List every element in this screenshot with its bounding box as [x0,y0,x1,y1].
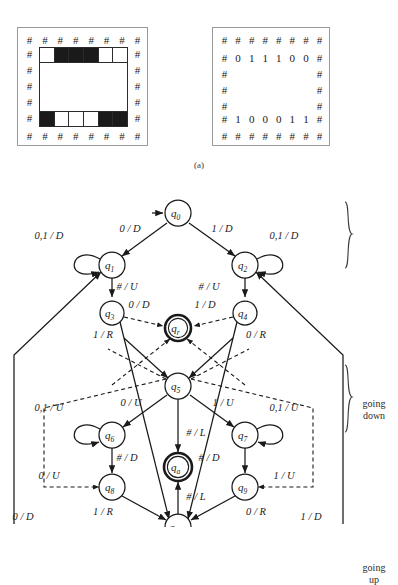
edge-dashed-q5-upleft [108,349,166,379]
state-node-qa[interactable]: qa [164,453,192,481]
right-panel-bottom-hash-row: # # # # # # # # [219,131,325,142]
edge-q4-q10 [188,322,237,519]
hash-symbol: # [117,131,128,142]
transition-label-t-q2-q4: # / U [199,281,221,292]
state-node-q8[interactable]: q8 [99,474,125,500]
hash-symbol: # [246,35,257,46]
hash-symbol: # [233,35,244,46]
hash-symbol: # [314,69,325,85]
hash-symbol: # [101,131,112,142]
tape-bottom-cell-5 [113,112,127,126]
brace-going-down [345,202,352,268]
state-node-q7[interactable]: q7 [232,422,258,448]
hash-symbol: # [70,35,81,46]
tape-top-cell-4 [99,48,114,62]
tape-bottom-cell-3 [84,112,99,126]
state-node-q10[interactable]: q10 [165,514,191,527]
hash-symbol: # [39,35,50,46]
transition-label-t-q0-q2: 1 / D [212,223,233,234]
state-label-subscript: 2 [243,265,247,274]
transition-label-t-q2-loop: 0,1 / D [270,230,299,241]
tape-digit: 1 [233,114,244,125]
hash-symbol: # [314,35,325,46]
tape-top-cell-2 [69,48,84,62]
right-panel-top-digit-row: # 0 1 1 1 0 0 # [219,53,325,64]
edge-dashed-q5-upright [191,349,249,379]
transition-label-t-dash-left: 0 / U [39,470,61,481]
transition-label-t-q6-loop: 0,1 / U [35,402,65,413]
edge-q4-qr [194,317,233,326]
state-diagram-svg: q0q1q2q3q4qrq5q6q7qaq8q9q10 0 / D1 / D0,… [0,180,398,527]
hash-symbol: # [260,131,271,142]
phase-braces [345,202,352,432]
hash-symbol: # [300,131,311,142]
state-node-q5[interactable]: q5 [165,373,191,399]
state-label-subscript: 6 [110,435,114,444]
left-panel-top-hash-row: # # # # # # # # [24,35,143,46]
transition-label-t-outer-right: 1 / D [301,511,322,522]
hash-symbol: # [24,81,35,97]
state-node-q6[interactable]: q6 [99,422,125,448]
hash-symbol: # [132,81,143,97]
hash-symbol: # [132,97,143,113]
state-label-subscript: 3 [109,313,114,322]
hash-symbol: # [24,35,35,46]
state-node-q3[interactable]: q3 [100,301,124,325]
state-label-subscript: 10 [175,527,183,528]
hash-symbol: # [70,131,81,142]
state-node-q9[interactable]: q9 [232,474,258,500]
tape-bottom-row [40,111,127,126]
hash-symbol: # [132,49,143,65]
state-node-q1[interactable]: q1 [99,252,125,278]
left-panel-right-hash-col: # # # # # [132,49,143,129]
tape-top-row [40,48,127,63]
state-node-qr[interactable]: qr [165,315,191,341]
hash-symbol: # [132,131,143,142]
hash-symbol: # [219,69,230,85]
transition-label-t-outer-left: 0 / D [13,511,34,522]
hash-symbol: # [86,35,97,46]
tape-digit: 1 [260,53,271,64]
tape-panels: # # # # # # # # # # # # # # # # # [0,0,398,152]
hash-symbol: # [273,131,284,142]
tape-digit: 0 [233,53,244,64]
hash-symbol: # [287,35,298,46]
tape-digit: 0 [260,114,271,125]
hash-symbol: # [24,65,35,81]
state-label-subscript: 8 [110,487,114,496]
state-label-subscript: 1 [110,265,114,274]
transition-label-t-q1-loop: 0,1 / D [35,230,64,241]
edge-q7-selfloop [257,425,283,444]
hash-symbol: # [55,131,66,142]
right-panel-right-hash-col: # # # [314,69,325,117]
hash-symbol: # [86,131,97,142]
state-label-subscript: 7 [243,435,247,444]
tape-top-cell-5 [113,48,127,62]
transition-label-t-q5-qa: # / L [186,427,205,438]
transition-label-t-q9-q10: 0 / R [246,506,266,517]
state-node-q2[interactable]: q2 [232,252,258,278]
state-node-q0[interactable]: q0 [165,200,191,226]
hash-symbol: # [101,35,112,46]
hash-symbol: # [132,35,143,46]
state-label-subscript: 5 [176,386,180,395]
edge-q2-selfloop [257,255,283,274]
transition-label-t-q3-qr: 0 / D [129,299,150,310]
phase-label-going-up-line1: going [352,562,396,574]
tape-digit: 1 [300,114,311,125]
hash-symbol: # [132,65,143,81]
left-panel-bottom-hash-row: # # # # # # # # [24,131,143,142]
edge-q8-q10 [122,496,166,520]
hash-symbol: # [132,113,143,129]
phase-label-going-down-line2: down [352,410,396,422]
transition-label-t-dash-right: 1 / U [274,470,296,481]
hash-symbol: # [55,35,66,46]
hash-symbol: # [219,35,230,46]
hash-symbol: # [314,114,325,125]
transition-label-t-q7-q9: # / D [199,452,220,463]
hash-symbol: # [219,131,230,142]
right-panel-top-hash-row: # # # # # # # # [219,35,325,46]
state-node-q4[interactable]: q4 [233,301,257,325]
hash-symbol: # [273,35,284,46]
